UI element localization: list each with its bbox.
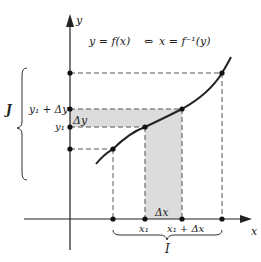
equation-left: y = f(x) <box>88 35 130 48</box>
x1-label: x₁ <box>139 223 149 234</box>
x-axis-arrow-icon <box>240 215 252 223</box>
x-axis-label: x <box>251 225 258 238</box>
y1-label: y₁ <box>54 121 65 132</box>
equivalence-arrow-icon: ⇔ <box>144 35 153 48</box>
x1-plus-dx-label: x₁ + Δx <box>167 223 205 234</box>
interval-j-label: J <box>4 103 13 117</box>
interval-j-brace <box>17 68 27 180</box>
equation-right: x = f⁻¹(y) <box>159 35 211 48</box>
interval-i-label: I <box>164 242 170 256</box>
inverse-function-diagram: y x y = f(x) ⇔ x = f⁻¹(y) J y₁ + Δy y₁ Δ… <box>0 0 261 262</box>
delta-y-label: Δy <box>72 114 88 127</box>
delta-x-label: Δx <box>154 206 169 218</box>
y-axis-label: y <box>75 14 83 27</box>
y-axis-arrow-icon <box>66 14 74 27</box>
y1-plus-dy-label: y₁ + Δy <box>28 103 69 115</box>
